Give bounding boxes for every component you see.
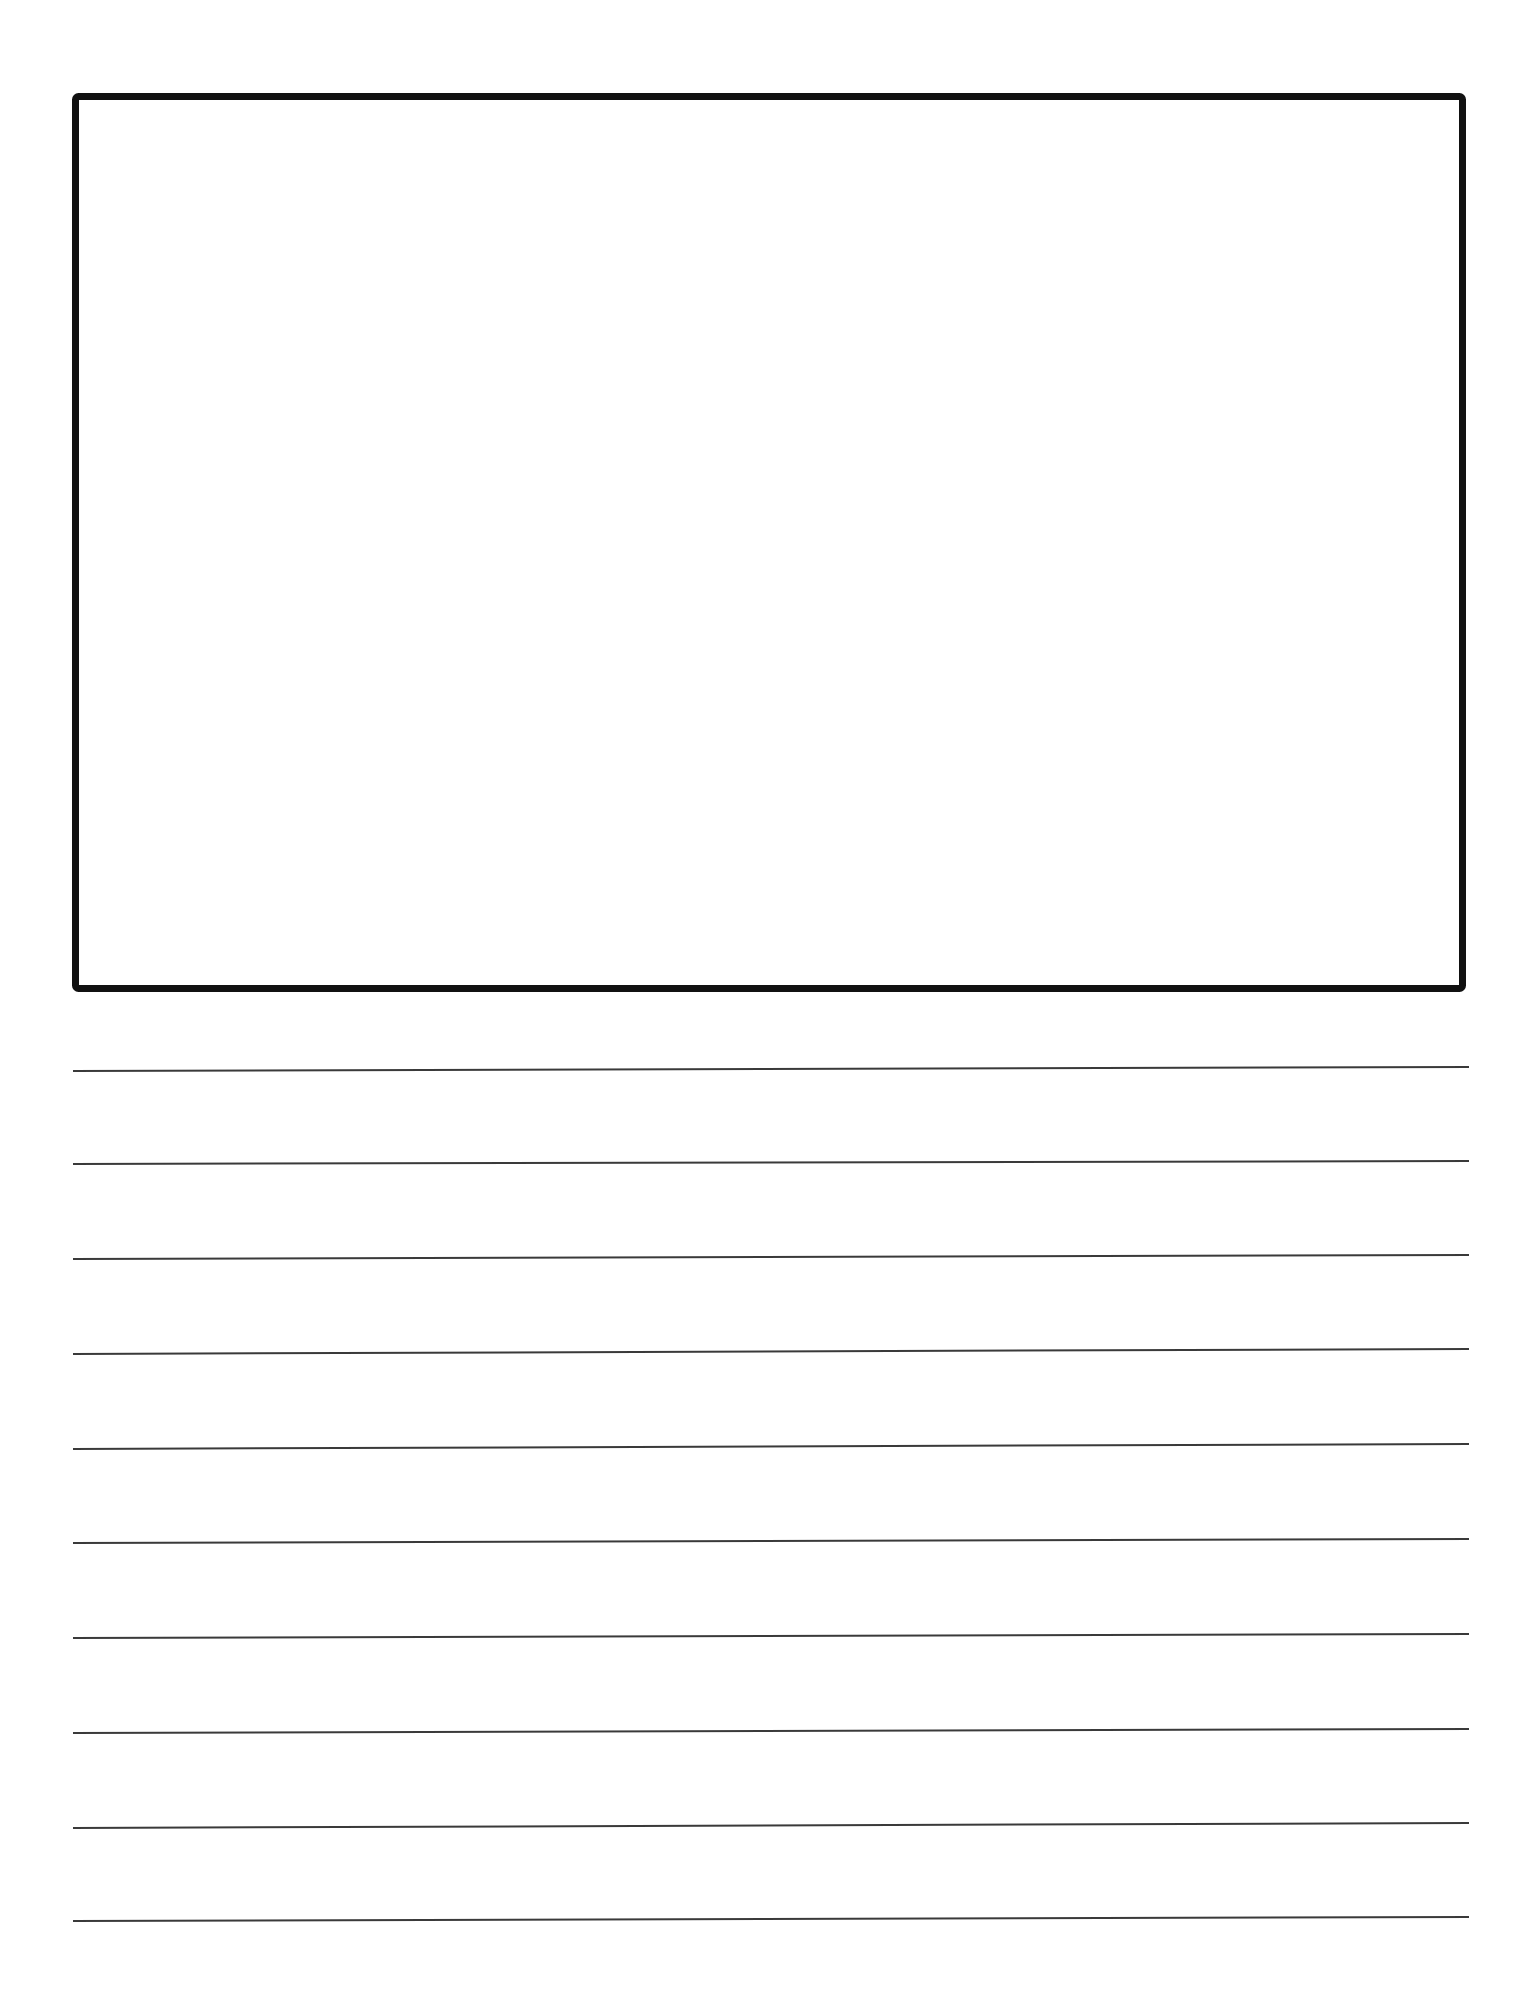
drawing-box (76, 97, 1463, 989)
writing-line (73, 1539, 1469, 1543)
writing-line (73, 1349, 1469, 1354)
writing-line (73, 1917, 1469, 1921)
writing-line (73, 1729, 1469, 1733)
writing-line (73, 1444, 1469, 1449)
writing-line (73, 1823, 1469, 1828)
writing-sheet (0, 0, 1530, 1991)
writing-line (73, 1634, 1469, 1638)
writing-line (73, 1161, 1469, 1164)
writing-line (73, 1067, 1469, 1071)
writing-lines (73, 1067, 1469, 1921)
writing-line (73, 1255, 1469, 1259)
writing-paper-page (0, 0, 1530, 1991)
